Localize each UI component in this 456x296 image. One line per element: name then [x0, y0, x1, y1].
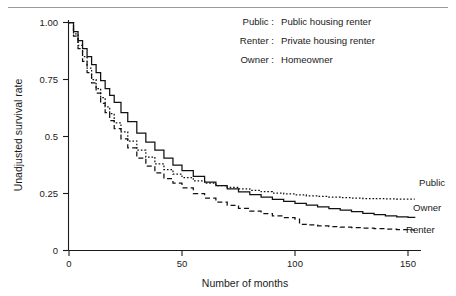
curve-label-owner: Owner — [413, 202, 442, 213]
y-tick-label-4: 0.25 — [40, 188, 59, 199]
legend-key-renter: Renter : — [240, 35, 274, 46]
curve-label-renter: Renter — [406, 224, 436, 235]
curve-label-public: Public — [419, 177, 445, 188]
survival-curve-chart: 1.00 0.75 0.5 0.25 0 0 50 100 150 Number… — [0, 0, 456, 296]
x-axis-label: Number of months — [202, 277, 288, 289]
x-tick-label-3: 100 — [287, 258, 303, 269]
y-axis-label: Unadjusted survival rate — [12, 79, 24, 192]
legend: Public : Public housing renter Renter : … — [240, 16, 376, 65]
y-tick-label-1: 1.00 — [40, 17, 59, 28]
x-tick-label-4: 150 — [400, 258, 416, 269]
y-tick-label-3: 0.5 — [45, 131, 58, 142]
x-axis-ticks — [69, 251, 408, 257]
x-axis-tick-labels: 0 50 100 150 — [66, 258, 416, 269]
y-tick-label-5: 0 — [53, 245, 58, 256]
legend-desc-renter: Private housing renter — [281, 35, 376, 46]
curve-end-labels: Public Owner Renter — [406, 177, 445, 235]
y-axis-tick-labels: 1.00 0.75 0.5 0.25 0 — [40, 17, 59, 256]
legend-key-owner: Owner : — [240, 54, 274, 65]
y-axis-ticks — [63, 23, 69, 251]
x-tick-label-2: 50 — [177, 258, 188, 269]
curve-owner — [69, 23, 415, 218]
legend-desc-owner: Homeowner — [281, 54, 334, 65]
legend-key-public: Public : — [243, 16, 274, 27]
figure-container: 1.00 0.75 0.5 0.25 0 0 50 100 150 Number… — [0, 0, 456, 296]
x-tick-label-1: 0 — [66, 258, 71, 269]
legend-desc-public: Public housing renter — [281, 16, 372, 27]
y-tick-label-2: 0.75 — [40, 74, 59, 85]
